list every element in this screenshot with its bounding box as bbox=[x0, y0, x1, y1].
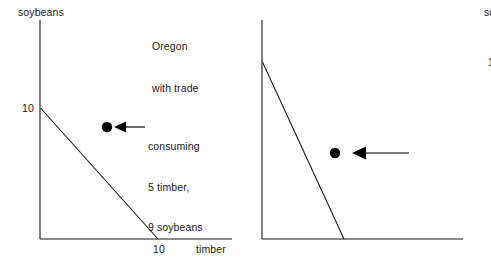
oregon-annotation-line-1: consuming bbox=[148, 140, 203, 154]
oregon-panel-title: Oregon with trade bbox=[152, 11, 199, 123]
oregon-y-axis-label: soybeans bbox=[18, 6, 64, 19]
oregon-title-line-1: Oregon bbox=[152, 39, 199, 53]
oregon-y-tick-label: 10 bbox=[22, 102, 34, 115]
panel-indiana: soybeans timber 18 6 Indiana with trade … bbox=[245, 0, 491, 271]
oregon-annotation-line-2: 5 timber, bbox=[148, 181, 203, 195]
indiana-y-axis-label: soybeans bbox=[484, 6, 491, 19]
ppf-figure: soybeans timber 10 10 Oregon with trade … bbox=[0, 0, 491, 271]
oregon-annotation-line-3: 9 soybeans bbox=[148, 221, 203, 235]
panel-oregon: soybeans timber 10 10 Oregon with trade … bbox=[0, 0, 246, 271]
oregon-title-line-2: with trade bbox=[152, 81, 199, 95]
oregon-annotation-text: consuming 5 timber, 9 soybeans bbox=[148, 113, 203, 262]
